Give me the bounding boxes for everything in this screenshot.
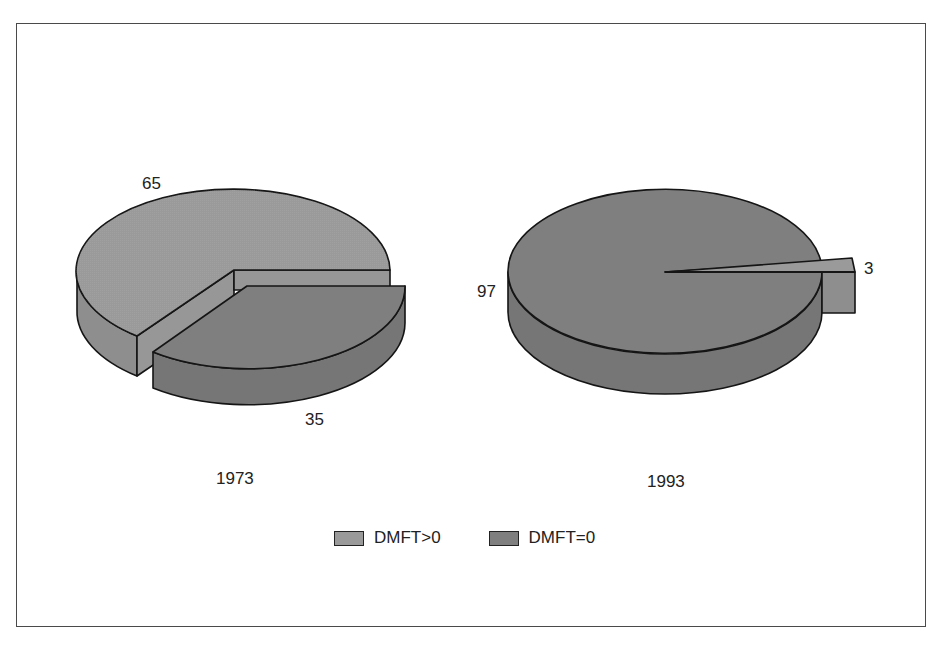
legend: DMFT>0 DMFT=0 [334,528,643,548]
label-1973-dmft-eq0: 35 [305,410,324,430]
caption-1993: 1993 [647,472,685,492]
label-1973-dmft-gt0: 65 [142,174,161,194]
legend-label-dmft-eq0: DMFT=0 [529,528,596,548]
slice-1993-dmft-eq0 [508,189,822,394]
legend-swatch-dmft-eq0 [489,531,519,546]
legend-item-dmft-gt0: DMFT>0 [334,528,441,548]
label-1993-dmft-gt0: 3 [864,259,873,279]
legend-swatch-dmft-gt0 [334,531,364,546]
label-1993-dmft-eq0: 97 [477,282,496,302]
legend-label-dmft-gt0: DMFT>0 [374,528,441,548]
caption-1973: 1973 [216,469,254,489]
pie-1973 [76,189,405,405]
legend-item-dmft-eq0: DMFT=0 [489,528,596,548]
pie-1993 [508,189,855,394]
pie-charts [0,0,944,645]
